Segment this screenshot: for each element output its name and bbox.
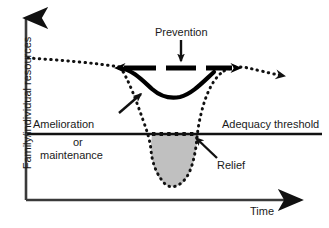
amelioration-label-line3: maintenance [40,149,103,162]
relief-label: Relief [217,159,245,172]
amelioration-label-line1: Amelioration [33,118,94,131]
prevention-label: Prevention [155,26,208,39]
x-axis-label: Time [250,205,274,218]
relief-arrow-icon [196,138,217,158]
figure-panel: Prevention Adequacy threshold Relief Tim… [0,0,329,228]
shaded-deficit-area [151,134,197,187]
y-axis-label: Family/individual resources [21,23,33,183]
amelioration-label-line2: or [73,136,83,149]
adequacy-threshold-label: Adequacy threshold [222,118,319,131]
